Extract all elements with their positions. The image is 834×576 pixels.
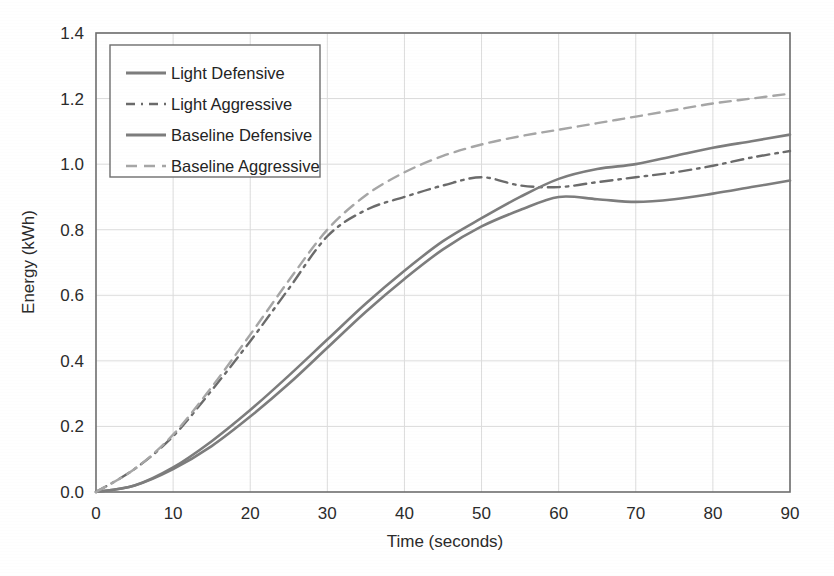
x-axis-title: Time (seconds): [387, 532, 504, 551]
y-axis-tick-labels: 0.00.20.40.60.81.01.21.4: [60, 24, 84, 502]
x-tick-label: 10: [164, 504, 183, 523]
y-tick-label: 0.2: [60, 417, 84, 436]
x-tick-label: 60: [549, 504, 568, 523]
legend-label-light-aggressive: Light Aggressive: [171, 95, 292, 113]
legend: Light DefensiveLight AggressiveBaseline …: [110, 45, 320, 177]
x-tick-label: 40: [395, 504, 414, 523]
legend-label-baseline-defensive: Baseline Defensive: [171, 126, 312, 144]
x-tick-label: 70: [626, 504, 645, 523]
legend-label-baseline-aggressive: Baseline Aggressive: [171, 157, 320, 175]
series-line-light-defensive: [96, 181, 790, 492]
series-line-baseline-defensive: [96, 135, 790, 492]
y-tick-label: 0.8: [60, 221, 84, 240]
y-tick-label: 0.6: [60, 286, 84, 305]
x-tick-label: 30: [318, 504, 337, 523]
energy-vs-time-chart: 0.00.20.40.60.81.01.21.4 010203040506070…: [0, 0, 834, 576]
x-tick-label: 0: [91, 504, 100, 523]
y-tick-label: 1.0: [60, 155, 84, 174]
x-tick-label: 90: [781, 504, 800, 523]
y-tick-label: 1.4: [60, 24, 84, 43]
legend-label-light-defensive: Light Defensive: [171, 64, 285, 82]
x-tick-label: 20: [241, 504, 260, 523]
y-axis-title: Energy (kWh): [19, 210, 38, 314]
x-axis-tick-labels: 0102030405060708090: [91, 504, 799, 523]
y-tick-label: 1.2: [60, 90, 84, 109]
x-tick-label: 50: [472, 504, 491, 523]
x-tick-label: 80: [703, 504, 722, 523]
chart-canvas: 0.00.20.40.60.81.01.21.4 010203040506070…: [0, 0, 834, 576]
series-line-light-aggressive: [96, 151, 790, 492]
y-tick-label: 0.4: [60, 352, 84, 371]
y-tick-label: 0.0: [60, 483, 84, 502]
